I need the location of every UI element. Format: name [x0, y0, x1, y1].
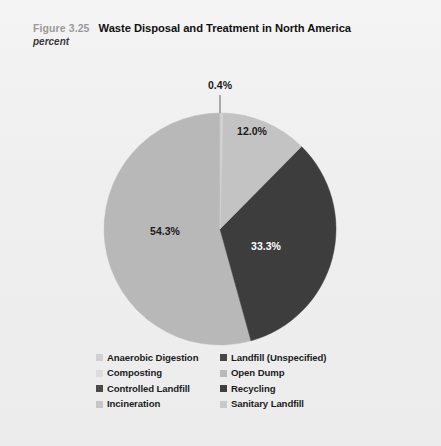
legend-swatch-icon: [96, 370, 103, 377]
legend-item-landfill-unspecified[interactable]: Landfill (Unspecified): [220, 350, 376, 366]
legend-swatch-icon: [96, 385, 103, 392]
pie-chart: 0.4% 12.0% 33.3% 54.3%: [0, 62, 441, 350]
legend-swatch-icon: [220, 370, 227, 377]
legend-item-incineration[interactable]: Incineration: [96, 397, 220, 413]
legend-swatch-icon: [96, 354, 103, 361]
legend-swatch-icon: [220, 385, 227, 392]
legend-item-label: Recycling: [231, 384, 275, 394]
legend-swatch-icon: [220, 354, 227, 361]
slice-value-composting: 12.0%: [237, 125, 267, 137]
legend-swatch-icon: [96, 401, 103, 408]
legend-item-recycling[interactable]: Recycling: [220, 381, 376, 397]
figure-header: Figure 3.25 Waste Disposal and Treatment…: [33, 22, 423, 47]
figure-number: Figure 3.25: [33, 22, 90, 34]
slice-value-anaerobic-digestion: 0.4%: [208, 79, 233, 91]
legend-item-label: Controlled Landfill: [107, 384, 190, 394]
legend-swatch-icon: [220, 401, 227, 408]
figure-card: Figure 3.25 Waste Disposal and Treatment…: [0, 0, 441, 446]
legend-item-controlled-landfill[interactable]: Controlled Landfill: [96, 381, 220, 397]
legend-item-label: Open Dump: [231, 368, 284, 378]
slice-value-controlled-landfill: 33.3%: [251, 240, 281, 252]
legend-item-label: Landfill (Unspecified): [231, 353, 326, 363]
legend-item-composting[interactable]: Composting: [96, 366, 220, 382]
figure-subtitle: percent: [33, 36, 423, 47]
slice-value-incineration: 54.3%: [150, 225, 180, 237]
legend-item-anaerobic-digestion[interactable]: Anaerobic Digestion: [96, 350, 220, 366]
figure-title-line: Figure 3.25 Waste Disposal and Treatment…: [33, 22, 423, 34]
legend-item-label: Sanitary Landfill: [231, 399, 304, 409]
pie-chart-svg: 0.4% 12.0% 33.3% 54.3%: [0, 62, 441, 350]
chart-legend: Anaerobic Digestion Landfill (Unspecifie…: [96, 350, 376, 412]
page-title: Waste Disposal and Treatment in North Am…: [99, 22, 351, 34]
legend-item-label: Incineration: [107, 399, 160, 409]
legend-item-label: Composting: [107, 368, 162, 378]
legend-item-label: Anaerobic Digestion: [107, 353, 198, 363]
legend-item-open-dump[interactable]: Open Dump: [220, 366, 376, 382]
legend-item-sanitary-landfill[interactable]: Sanitary Landfill: [220, 397, 376, 413]
